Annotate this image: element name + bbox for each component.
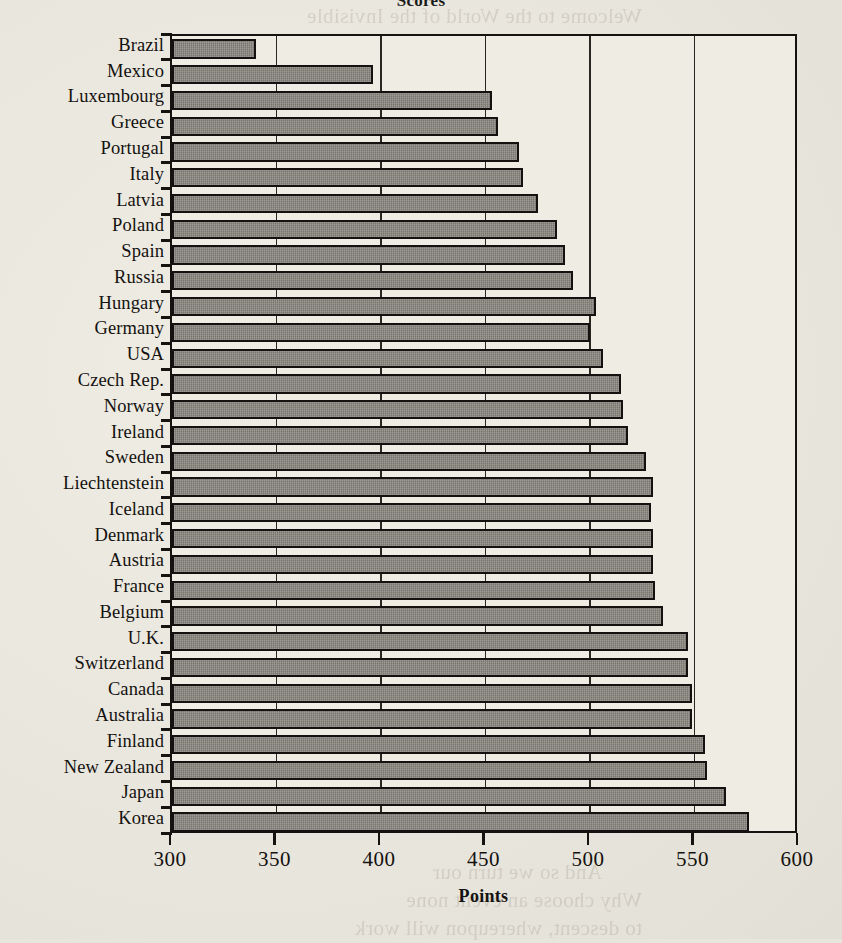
bar[interactable]: [172, 91, 492, 110]
x-axis-tick-label: 450: [467, 847, 500, 872]
bar[interactable]: [172, 761, 707, 780]
bar[interactable]: [172, 400, 623, 419]
bar-row[interactable]: [172, 294, 795, 320]
x-axis-tick-label: 500: [572, 847, 605, 872]
bar[interactable]: [172, 349, 603, 368]
y-axis-label: Switzerland: [75, 653, 164, 674]
bar[interactable]: [172, 555, 653, 574]
x-axis-tick-label: 350: [258, 847, 291, 872]
x-axis-tick: [796, 833, 798, 845]
plot-area: [170, 34, 797, 833]
bar-row[interactable]: [172, 423, 795, 449]
bar[interactable]: [172, 581, 655, 600]
bar[interactable]: [172, 39, 256, 58]
bar-row[interactable]: [172, 680, 795, 706]
x-axis-tick: [482, 833, 484, 845]
bar[interactable]: [172, 477, 653, 496]
y-axis-label: Mexico: [107, 61, 164, 82]
x-axis-tick: [587, 833, 589, 845]
bar[interactable]: [172, 787, 726, 806]
bar[interactable]: [172, 606, 663, 625]
bar[interactable]: [172, 684, 692, 703]
bar-row[interactable]: [172, 165, 795, 191]
bar-row[interactable]: [172, 551, 795, 577]
bar-row[interactable]: [172, 603, 795, 629]
bar[interactable]: [172, 503, 651, 522]
y-axis-label: Norway: [104, 396, 164, 417]
bar-row[interactable]: [172, 783, 795, 809]
bar-row[interactable]: [172, 36, 795, 62]
bar[interactable]: [172, 735, 705, 754]
bar[interactable]: [172, 529, 653, 548]
bar[interactable]: [172, 168, 523, 187]
bar-row[interactable]: [172, 216, 795, 242]
bar-row[interactable]: [172, 629, 795, 655]
y-axis-label: New Zealand: [64, 757, 164, 778]
bar-row[interactable]: [172, 371, 795, 397]
x-axis-tick-label: 600: [781, 847, 814, 872]
bar[interactable]: [172, 709, 692, 728]
bar-row[interactable]: [172, 191, 795, 217]
y-axis-label: Austria: [109, 550, 164, 571]
y-axis-label: Finland: [107, 731, 164, 752]
y-axis-label: Poland: [112, 215, 164, 236]
bar-row[interactable]: [172, 526, 795, 552]
bar-row[interactable]: [172, 397, 795, 423]
y-axis-label: Greece: [111, 112, 164, 133]
bar-row[interactable]: [172, 500, 795, 526]
bar-row[interactable]: [172, 113, 795, 139]
bar-row[interactable]: [172, 320, 795, 346]
y-axis-label: Hungary: [99, 293, 164, 314]
bar-row[interactable]: [172, 268, 795, 294]
bar-row[interactable]: [172, 88, 795, 114]
bar[interactable]: [172, 374, 621, 393]
bar[interactable]: [172, 194, 538, 213]
x-axis-tick: [273, 833, 275, 845]
bar[interactable]: [172, 245, 565, 264]
bar-row[interactable]: [172, 345, 795, 371]
bar-row[interactable]: [172, 758, 795, 784]
y-axis-label: Belgium: [100, 602, 164, 623]
x-axis-tick-label: 400: [363, 847, 396, 872]
bar-row[interactable]: [172, 732, 795, 758]
bar[interactable]: [172, 632, 688, 651]
x-axis-tick-label: 550: [676, 847, 709, 872]
bar-row[interactable]: [172, 62, 795, 88]
bar[interactable]: [172, 812, 749, 831]
x-axis-tick: [691, 833, 693, 845]
bar-row[interactable]: [172, 139, 795, 165]
y-axis-label: Sweden: [105, 447, 164, 468]
bar-row[interactable]: [172, 577, 795, 603]
y-axis-label: USA: [127, 344, 164, 365]
y-axis-label: Czech Rep.: [78, 370, 164, 391]
bar[interactable]: [172, 658, 688, 677]
bar[interactable]: [172, 426, 628, 445]
y-axis-label: U.K.: [128, 628, 164, 649]
y-axis-label: Italy: [130, 164, 164, 185]
y-axis-label: Australia: [95, 705, 164, 726]
bar[interactable]: [172, 323, 590, 342]
bar-row[interactable]: [172, 242, 795, 268]
bar[interactable]: [172, 117, 498, 136]
bar[interactable]: [172, 271, 573, 290]
y-axis-label: Latvia: [116, 190, 164, 211]
bar[interactable]: [172, 297, 596, 316]
y-axis-label: Russia: [114, 267, 164, 288]
y-axis-label: Luxembourg: [68, 86, 164, 107]
bar-row[interactable]: [172, 706, 795, 732]
y-axis-label: Brazil: [118, 35, 164, 56]
bar-row[interactable]: [172, 655, 795, 681]
bar[interactable]: [172, 220, 557, 239]
y-axis-label: Germany: [94, 318, 164, 339]
bar[interactable]: [172, 452, 646, 471]
bar[interactable]: [172, 65, 373, 84]
bar-row[interactable]: [172, 474, 795, 500]
y-axis-label: Portugal: [101, 138, 165, 159]
bar[interactable]: [172, 142, 519, 161]
y-axis-label: Ireland: [111, 422, 164, 443]
bar-row[interactable]: [172, 448, 795, 474]
bar-row[interactable]: [172, 809, 795, 835]
x-axis-tick: [169, 833, 171, 845]
y-axis-label: Iceland: [109, 499, 164, 520]
